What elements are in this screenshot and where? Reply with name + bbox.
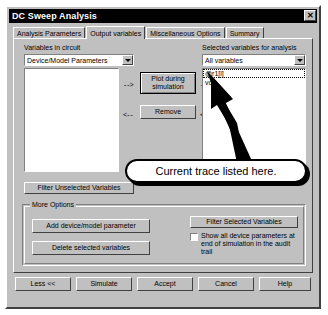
list-item[interactable]: vo bbox=[203, 78, 305, 87]
screenshot-canvas: DC Sweep Analysis ✕ Analysis Parameters … bbox=[0, 0, 328, 315]
filter-unselected-variables-button[interactable]: Filter Unselected Variables bbox=[24, 182, 134, 194]
close-icon[interactable]: ✕ bbox=[304, 10, 316, 21]
show-all-device-parameters-checkbox-row[interactable]: Show all device parameters at end of sim… bbox=[190, 232, 302, 256]
remove-arrow-left-icon: <-- bbox=[123, 111, 133, 119]
all-variables-combo[interactable]: All variables bbox=[202, 54, 306, 66]
variables-in-circuit-label: Variables in circuit bbox=[24, 44, 80, 51]
show-all-device-parameters-label: Show all device parameters at end of sim… bbox=[201, 232, 302, 256]
chevron-down-icon[interactable] bbox=[122, 55, 133, 65]
window-title: DC Sweep Analysis bbox=[9, 11, 97, 21]
selected-variables-label: Selected variables for analysis bbox=[202, 44, 297, 51]
delete-selected-variables-button[interactable]: Delete selected variables bbox=[32, 241, 150, 255]
tab-output-variables[interactable]: Output variables bbox=[86, 26, 145, 39]
dc-sweep-analysis-dialog: DC Sweep Analysis ✕ Analysis Parameters … bbox=[5, 5, 321, 309]
title-bar: DC Sweep Analysis ✕ bbox=[9, 9, 317, 23]
more-options-title: More Options bbox=[30, 201, 76, 208]
output-variables-panel: Variables in circuit Device/Model Parame… bbox=[13, 38, 313, 273]
device-model-parameters-value: Device/Model Parameters bbox=[25, 57, 122, 64]
accept-button[interactable]: Accept bbox=[137, 277, 193, 291]
device-model-parameters-combo[interactable]: Device/Model Parameters bbox=[24, 54, 134, 66]
annotation-callout: Current trace listed here. bbox=[125, 159, 307, 183]
footer-button-bar: Less << Simulate Accept Cancel Help bbox=[13, 277, 313, 293]
simulate-button[interactable]: Simulate bbox=[76, 277, 132, 291]
filter-selected-variables-button[interactable]: Filter Selected Variables bbox=[190, 216, 298, 228]
annotation-callout-text: Current trace listed here. bbox=[155, 165, 276, 177]
chevron-down-icon[interactable] bbox=[294, 55, 305, 65]
plot-during-simulation-button[interactable]: Plot during simulation bbox=[140, 72, 196, 94]
remove-button[interactable]: Remove bbox=[140, 105, 196, 119]
help-button[interactable]: Help bbox=[259, 277, 311, 291]
all-variables-value: All variables bbox=[203, 57, 294, 64]
selected-variables-listbox[interactable]: @r1[i] vo bbox=[202, 68, 306, 172]
add-device-model-parameter-button[interactable]: Add device/model parameter bbox=[32, 219, 150, 233]
list-item[interactable]: @r1[i] bbox=[203, 69, 305, 78]
add-arrow-left-icon: --> bbox=[123, 81, 133, 89]
less-button[interactable]: Less << bbox=[15, 277, 71, 291]
show-all-device-parameters-checkbox[interactable] bbox=[190, 233, 198, 241]
variables-in-circuit-listbox[interactable] bbox=[24, 68, 119, 172]
cancel-button[interactable]: Cancel bbox=[198, 277, 254, 291]
